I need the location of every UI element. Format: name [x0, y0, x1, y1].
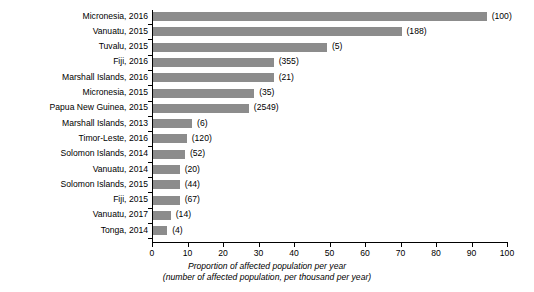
bar [153, 119, 192, 128]
y-axis-tick [148, 116, 152, 117]
bar [153, 211, 171, 220]
bar [153, 196, 180, 205]
bar-chart: Micronesia, 2016Vanuatu, 2015Tuvalu, 201… [0, 0, 534, 292]
category-label: Timor-Leste, 2016 [0, 134, 148, 143]
bar-value-label: (67) [185, 195, 200, 204]
bar [153, 73, 274, 82]
category-label: Vanuatu, 2014 [0, 165, 148, 174]
category-label: Vanuatu, 2015 [0, 27, 148, 36]
y-axis-tick [148, 85, 152, 86]
y-axis-tick [148, 101, 152, 102]
x-axis-tick [152, 243, 153, 247]
category-label: Solomon Islands, 2014 [0, 149, 148, 158]
x-axis-tick-label: 60 [345, 248, 385, 258]
category-label: Solomon Islands, 2015 [0, 180, 148, 189]
x-axis-tick [365, 243, 366, 247]
bar [153, 89, 254, 98]
x-axis-tick-label: 100 [487, 248, 527, 258]
bar [153, 12, 487, 21]
y-axis-tick [148, 223, 152, 224]
category-label: Marshall Islands, 2016 [0, 73, 148, 82]
x-axis-tick-label: 50 [310, 248, 350, 258]
bar-value-label: (20) [185, 165, 200, 174]
x-axis-title: Proportion of affected population per ye… [0, 261, 534, 272]
category-label: Vanuatu, 2017 [0, 210, 148, 219]
bar-value-label: (14) [176, 210, 191, 219]
x-axis-tick-label: 90 [452, 248, 492, 258]
plot-area: Micronesia, 2016Vanuatu, 2015Tuvalu, 201… [0, 0, 534, 292]
x-axis-tick [223, 243, 224, 247]
x-axis-tick-label: 40 [274, 248, 314, 258]
category-label: Fiji, 2015 [0, 195, 148, 204]
bar [153, 58, 274, 67]
x-axis-tick-label: 30 [239, 248, 279, 258]
bar-value-label: (6) [197, 119, 208, 128]
bar-value-label: (120) [192, 134, 212, 143]
bar [153, 165, 180, 174]
x-axis-tick-label: 70 [381, 248, 421, 258]
bar [153, 43, 327, 52]
category-label: Marshall Islands, 2013 [0, 119, 148, 128]
bar-value-label: (35) [259, 88, 274, 97]
y-axis-tick [148, 238, 152, 239]
x-axis-tick-label: 80 [416, 248, 456, 258]
x-axis-tick [507, 243, 508, 247]
y-axis-tick [148, 70, 152, 71]
category-label: Micronesia, 2016 [0, 12, 148, 21]
bar-value-label: (100) [492, 12, 512, 21]
bar-value-label: (21) [279, 73, 294, 82]
bar-value-label: (355) [279, 57, 299, 66]
category-label: Papua New Guinea, 2015 [0, 103, 148, 112]
bar [153, 134, 187, 143]
bar [153, 27, 402, 36]
y-axis-tick [148, 208, 152, 209]
bar-value-label: (188) [407, 27, 427, 36]
bar-value-label: (52) [190, 149, 205, 158]
y-axis-tick [148, 24, 152, 25]
x-axis-subtitle: (number of affected population, per thou… [0, 272, 534, 283]
bar [153, 150, 185, 159]
bar-value-label: (44) [185, 180, 200, 189]
category-label: Fiji, 2016 [0, 57, 148, 66]
y-axis-tick [148, 131, 152, 132]
bar-value-label: (4) [172, 226, 183, 235]
y-axis-tick [148, 146, 152, 147]
y-axis-tick [148, 177, 152, 178]
y-axis-tick [148, 192, 152, 193]
y-axis-tick [148, 162, 152, 163]
category-label: Tuvalu, 2015 [0, 42, 148, 51]
bar-value-label: (5) [332, 42, 343, 51]
category-label: Micronesia, 2015 [0, 88, 148, 97]
y-axis-tick [148, 39, 152, 40]
bar [153, 104, 249, 113]
x-axis-tick [401, 243, 402, 247]
x-axis-tick [259, 243, 260, 247]
x-axis-tick [436, 243, 437, 247]
x-axis-tick-label: 0 [132, 248, 172, 258]
x-axis-tick-label: 20 [203, 248, 243, 258]
category-label: Tonga, 2014 [0, 226, 148, 235]
bar-value-label: (2549) [254, 103, 279, 112]
x-axis-tick [188, 243, 189, 247]
x-axis-tick-label: 10 [168, 248, 208, 258]
x-axis-tick [330, 243, 331, 247]
x-axis-tick [294, 243, 295, 247]
y-axis-tick [148, 55, 152, 56]
bar [153, 180, 180, 189]
x-axis-tick [472, 243, 473, 247]
bar [153, 226, 167, 235]
